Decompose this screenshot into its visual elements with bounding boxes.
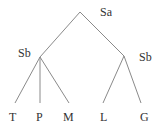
edge-left-m [40,57,69,103]
edge-left-t [15,57,40,103]
edge-right-l [103,56,124,103]
tree-edges [15,12,141,103]
leaf-label-m: M [63,110,74,124]
node-label-left-sb: Sb [18,46,31,60]
leaf-label-t: T [9,110,17,124]
node-label-right-sb: Sb [139,50,152,64]
tree-diagram: Sa Sb Sb T P M L G [0,0,160,125]
leaf-label-p: P [36,110,43,124]
leaf-label-g: G [140,110,149,124]
node-label-root: Sa [100,5,113,19]
leaf-label-l: L [100,110,107,124]
tree-labels: Sa Sb Sb T P M L G [9,5,152,124]
edge-root-left [40,12,80,57]
